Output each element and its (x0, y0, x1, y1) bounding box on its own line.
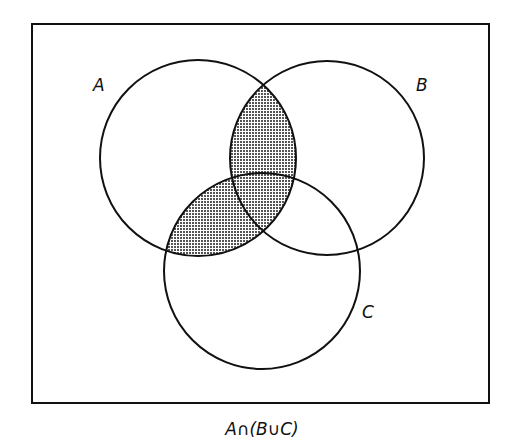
set-b-label: B (416, 75, 428, 95)
venn-diagram: A B C A∩(B∪C) (0, 0, 519, 440)
set-c-label: C (362, 302, 374, 322)
set-a-label: A (92, 75, 105, 95)
diagram-caption: A∩(B∪C) (224, 419, 298, 439)
